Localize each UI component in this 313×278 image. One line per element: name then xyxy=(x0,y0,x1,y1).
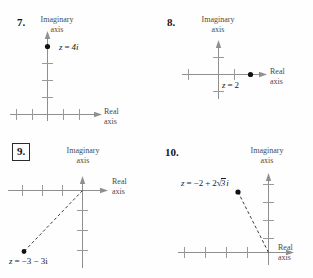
eq-imaginary-unit: i xyxy=(226,178,229,188)
eq-term1: −2 xyxy=(194,178,204,188)
eq-variable: z xyxy=(181,178,185,188)
eq-value: 2 xyxy=(235,80,240,90)
real-axis-arrowhead xyxy=(286,250,294,255)
problem-10-point-label: z=−2+2√3i xyxy=(181,178,229,188)
origin-to-point-dashed-line xyxy=(238,192,269,253)
problem-8-plot xyxy=(156,0,313,138)
plotted-point xyxy=(248,72,253,77)
problem-9: 9. Imaginary axis Real axis xyxy=(0,138,156,278)
problem-10-plot xyxy=(156,138,313,278)
eq-equals: = xyxy=(13,256,22,266)
problem-8-point-label: z=2 xyxy=(222,80,239,90)
imaginary-axis-arrowhead xyxy=(216,40,221,48)
eq-value: −3 − 3i xyxy=(22,256,48,266)
imaginary-axis-arrowhead xyxy=(45,31,50,39)
problem-7: 7. Imaginary axis Real axis xyxy=(0,0,156,138)
real-axis-arrowhead xyxy=(259,72,267,77)
plotted-point xyxy=(22,249,27,254)
square-root-expression: √3 xyxy=(217,178,226,188)
eq-variable: z xyxy=(59,42,63,52)
problem-9-point-label: z=−3 − 3i xyxy=(9,256,48,266)
real-axis-arrowhead xyxy=(94,112,102,117)
eq-equals: = xyxy=(185,178,194,188)
eq-radicand: 3 xyxy=(221,178,226,188)
origin-to-point-dashed-line xyxy=(24,191,83,252)
problem-7-point-label: z=4i xyxy=(59,42,79,52)
plotted-point xyxy=(45,44,50,49)
real-axis-arrowhead xyxy=(100,188,108,193)
eq-operator: + xyxy=(203,178,212,188)
problem-10: 10. Imaginary axis Real axis xyxy=(156,138,313,278)
worksheet-page: 7. Imaginary axis Real axis xyxy=(0,0,313,278)
problem-8: 8. Imaginary axis Real axis z= xyxy=(156,0,313,138)
imaginary-axis-arrowhead xyxy=(266,173,271,181)
eq-variable: z xyxy=(9,256,13,266)
eq-equals: = xyxy=(63,42,72,52)
imaginary-axis-arrowhead xyxy=(80,176,85,184)
problem-7-plot xyxy=(0,0,156,138)
eq-variable: z xyxy=(222,80,226,90)
eq-equals: = xyxy=(226,80,235,90)
eq-value: 4i xyxy=(72,42,79,52)
plotted-point xyxy=(235,189,240,194)
